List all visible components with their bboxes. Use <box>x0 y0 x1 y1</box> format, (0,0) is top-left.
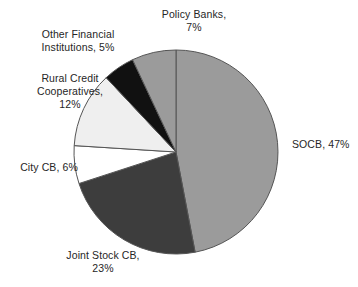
slice-label-other-financial-institutions: Other Financial Institutions, 5% <box>16 28 140 54</box>
slice-label-socb: SOCB, 47% <box>292 138 356 151</box>
pie-slice-socb <box>176 50 278 252</box>
slice-label-joint-stock-cb: Joint Stock CB, 23% <box>42 249 164 275</box>
slice-label-policy-banks: Policy Banks, 7% <box>142 8 246 34</box>
pie-chart: Policy Banks, 7% Other Financial Institu… <box>0 0 358 287</box>
slice-label-city-cb: City CB, 6% <box>2 161 96 174</box>
slice-label-rural-credit-cooperatives: Rural Credit Cooperatives, 12% <box>8 72 132 111</box>
